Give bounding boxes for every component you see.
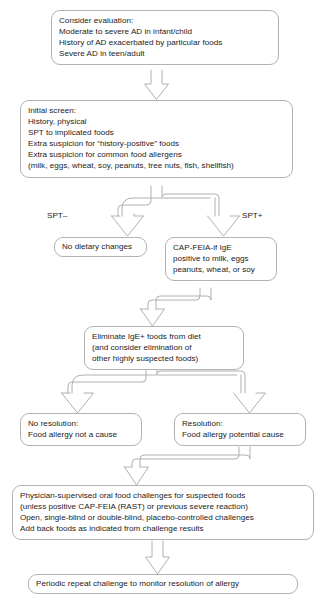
connector-eliminate-split-left	[68, 366, 146, 393]
node-no-dietary-changes: No dietary changes	[54, 237, 147, 257]
connector-lower-split-inner	[72, 375, 237, 393]
connector-capfeia-to-eliminate	[148, 288, 200, 309]
node-consider-evaluation: Consider evaluation: Moderate to severe …	[51, 10, 279, 65]
arrowhead-spt-negative	[112, 214, 144, 236]
connector-initial-split	[118, 186, 151, 216]
arrowhead-to-eliminate	[141, 309, 165, 326]
connector-capfeia-to-eliminate-b	[156, 288, 211, 309]
arrowhead-spt-positive	[208, 216, 240, 236]
connector-initial-split-right	[162, 186, 219, 216]
arrow-consider-to-initial	[145, 70, 169, 100]
flowchart-canvas: Consider evaluation: Moderate to severe …	[0, 0, 326, 609]
connector-resolution-to-challenges	[132, 447, 239, 467]
connector-resolution-to-challenges-b	[140, 447, 250, 467]
node-initial-screen: Initial screen: History, physical SPT to…	[20, 100, 293, 178]
connector-eliminate-split-right	[157, 366, 245, 393]
arrowhead-to-challenges	[125, 467, 149, 485]
connector-split-inner-left	[122, 198, 210, 216]
branch-label-spt-negative: SPT–	[47, 211, 67, 221]
node-eliminate-ige-foods: Eliminate IgE+ foods from diet (and cons…	[84, 326, 244, 370]
branch-label-spt-positive: SPT+	[242, 211, 262, 221]
node-resolution: Resolution: Food allergy potential cause	[174, 413, 306, 446]
arrowhead-to-no-resolution	[62, 393, 94, 413]
arrow-challenges-to-periodic	[146, 541, 170, 574]
node-cap-feia: CAP-FEIA-if IgE positive to milk, eggs p…	[165, 237, 277, 281]
arrowhead-to-resolution	[234, 393, 266, 413]
node-oral-food-challenges: Physician-supervised oral food challenge…	[12, 485, 314, 540]
node-periodic-repeat-challenge: Periodic repeat challenge to monitor res…	[28, 574, 298, 594]
node-no-resolution: No resolution: Food allergy not a cause	[20, 413, 142, 446]
